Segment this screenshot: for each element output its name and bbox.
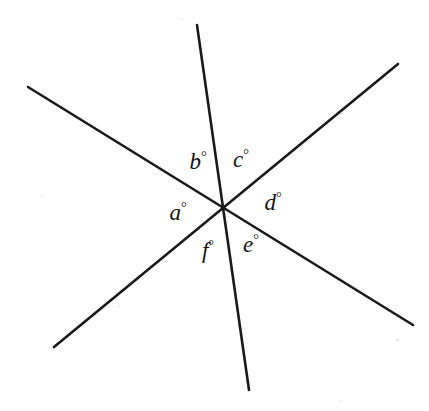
angle-label-b: b° [189, 149, 206, 174]
angle-label-d-symbol: d [264, 190, 276, 215]
paper-speck-2 [41, 195, 43, 197]
paper-speck-0 [396, 338, 399, 341]
angle-label-d: d° [264, 190, 281, 215]
lines-group [28, 25, 413, 390]
angle-label-a-degree-sign: ° [181, 199, 187, 215]
paper-speck-1 [340, 400, 342, 402]
angle-label-a-symbol: a [169, 200, 181, 225]
angle-label-c-degree-sign: ° [243, 146, 249, 162]
angle-label-f-degree-sign: ° [208, 237, 214, 253]
angle-label-c: c° [233, 147, 249, 172]
angle-label-d-degree-sign: ° [276, 189, 282, 205]
angle-label-f: f° [202, 238, 214, 263]
angle-label-e: e° [243, 232, 259, 257]
paper-speck-3 [118, 305, 120, 307]
angle-label-b-symbol: b [189, 149, 201, 174]
diagram-canvas [0, 0, 429, 411]
angle-label-e-degree-sign: ° [253, 231, 259, 247]
line-nw-se [28, 87, 413, 325]
angle-label-b-degree-sign: ° [201, 148, 207, 164]
angle-label-e-symbol: e [243, 232, 253, 257]
line-sw-ne [54, 64, 398, 347]
angle-label-c-symbol: c [233, 147, 243, 172]
angles-diagram-figure: a°b°c°d°e°f° [0, 0, 429, 411]
angle-label-a: a° [169, 200, 186, 225]
paper-speck-4 [180, 18, 182, 20]
